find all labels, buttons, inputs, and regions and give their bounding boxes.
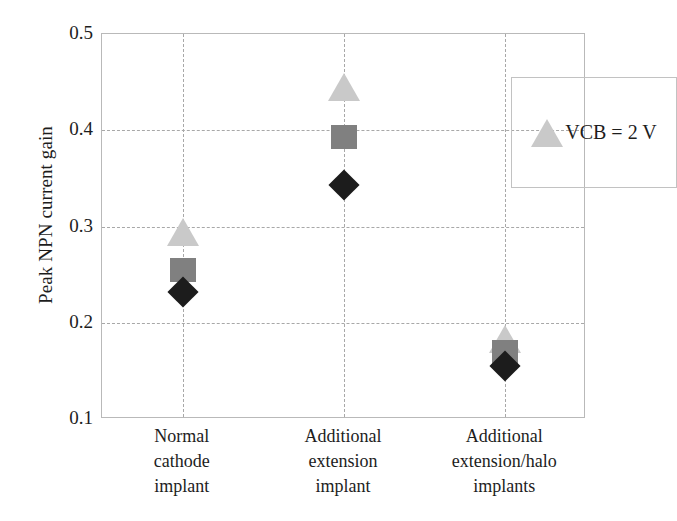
x-tick-label: Additionalextension/haloimplants: [429, 424, 579, 499]
x-tick-label-line: implants: [429, 474, 579, 499]
triangle-marker: [167, 218, 199, 246]
y-tick-label: 0.4: [35, 118, 93, 140]
x-tick-label-line: Additional: [429, 424, 579, 449]
legend-box: VCB = 2 V: [511, 77, 677, 188]
y-tick-label: 0.2: [35, 311, 93, 333]
y-tick-label: 0.5: [35, 22, 93, 44]
x-tick-label-line: implant: [268, 474, 418, 499]
x-tick-label: Additionalextensionimplant: [268, 424, 418, 499]
legend-entry: VCB = 2 V: [512, 119, 676, 147]
triangle-marker: [328, 73, 360, 101]
x-axis-tick-labels: NormalcathodeimplantAdditionalextensioni…: [101, 424, 585, 516]
x-tick-label-line: Normal: [107, 424, 257, 449]
x-tick-label-line: Additional: [268, 424, 418, 449]
x-tick-label: Normalcathodeimplant: [107, 424, 257, 499]
triangle-marker-icon: [531, 119, 563, 147]
x-tick-label-line: extension/halo: [429, 449, 579, 474]
x-tick-label-line: cathode: [107, 449, 257, 474]
diamond-marker: [328, 170, 359, 201]
gridline-horizontal: [102, 323, 584, 324]
square-marker: [331, 125, 357, 149]
y-tick-label: 0.1: [35, 407, 93, 429]
y-tick-label: 0.3: [35, 215, 93, 237]
y-axis-tick-labels: 0.50.40.30.20.1: [33, 33, 93, 418]
x-tick-label-line: extension: [268, 449, 418, 474]
plot-area: VCB = 2 V: [101, 33, 585, 418]
x-tick-label-line: implant: [107, 474, 257, 499]
legend-label: VCB = 2 V: [565, 121, 656, 144]
